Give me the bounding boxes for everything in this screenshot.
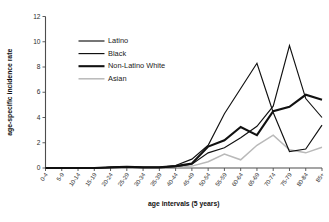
x-tick-label-1: 5-9 xyxy=(55,172,65,182)
x-tick-label-10: 50-54 xyxy=(198,171,212,187)
y-tick-label-6: 6 xyxy=(37,88,41,95)
y-tick-label-0: 0 xyxy=(37,164,41,171)
series-layer xyxy=(46,46,323,168)
x-tick-label-0: 0-4 xyxy=(39,171,49,182)
x-tick-label-8: 40-44 xyxy=(165,171,179,187)
legend-label-3: Asian xyxy=(108,74,127,83)
x-tick-label-14: 70-74 xyxy=(263,171,277,187)
x-tick-label-11: 55-59 xyxy=(214,172,228,188)
y-tick-label-10: 10 xyxy=(33,38,41,45)
x-tick-label-13: 65-69 xyxy=(247,172,261,188)
legend-layer: LatinoBlackNon-Latino WhiteAsian xyxy=(79,36,166,83)
legend-item-latino[interactable]: Latino xyxy=(79,36,129,45)
legend-item-black[interactable]: Black xyxy=(79,49,127,58)
x-tick-label-17: 85+ xyxy=(315,171,326,183)
x-tick-label-2: 10-14 xyxy=(68,171,82,187)
y-tick-label-2: 2 xyxy=(37,139,41,146)
legend-label-0: Latino xyxy=(108,36,128,45)
series-line-asian xyxy=(46,135,323,168)
x-tick-label-12: 60-64 xyxy=(231,171,245,187)
x-tick-label-4: 20-24 xyxy=(100,171,114,187)
x-tick-label-3: 15-19 xyxy=(84,172,98,188)
legend-item-asian[interactable]: Asian xyxy=(79,74,127,83)
legend-label-2: Non-Latino White xyxy=(108,61,165,70)
chart-figure: 0246810120-45-910-1415-1920-2425-2930-34… xyxy=(0,0,329,222)
axis-layer: 0246810120-45-910-1415-1920-2425-2930-34… xyxy=(33,13,326,188)
legend-label-1: Black xyxy=(108,49,126,58)
line-chart: 0246810120-45-910-1415-1920-2425-2930-34… xyxy=(0,0,329,222)
legend-item-non-latino-white[interactable]: Non-Latino White xyxy=(79,61,166,70)
x-tick-label-16: 80-84 xyxy=(296,171,310,187)
series-line-latino xyxy=(46,46,323,168)
y-tick-label-8: 8 xyxy=(37,63,41,70)
x-tick-label-9: 45-49 xyxy=(182,172,196,188)
x-axis-title: age intervals (5 years) xyxy=(148,200,219,208)
x-tick-label-5: 25-29 xyxy=(117,172,131,188)
y-tick-label-4: 4 xyxy=(37,114,41,121)
x-tick-label-7: 35-39 xyxy=(149,172,163,188)
x-tick-label-15: 75-79 xyxy=(279,172,293,188)
y-axis-title: age-specific incidence rate xyxy=(6,49,14,136)
y-tick-label-12: 12 xyxy=(33,13,41,20)
x-tick-label-6: 30-34 xyxy=(133,171,147,187)
